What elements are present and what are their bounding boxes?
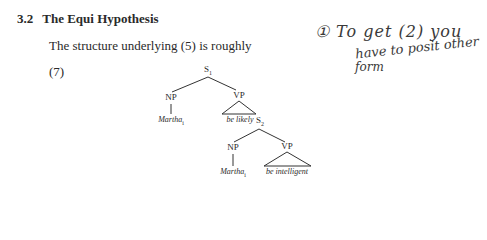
tree-node-s2: S2 (256, 115, 264, 127)
tree-node-vp1: VP (233, 90, 245, 100)
tree-leaf-be-intelligent: be intelligent (266, 167, 308, 176)
tree-leaf-martha-2: Marthai (220, 167, 246, 178)
tree-node-np2: NP (227, 142, 239, 152)
tree-node-np1: NP (165, 92, 177, 102)
tree-leaf-martha-1: Marthai (158, 115, 184, 126)
handwritten-note-line-3: form (355, 60, 384, 74)
tree-node-s1: S1 (204, 64, 212, 76)
tree-leaf-be-likely: be likely (227, 115, 254, 124)
tree-node-vp2: VP (281, 141, 293, 151)
